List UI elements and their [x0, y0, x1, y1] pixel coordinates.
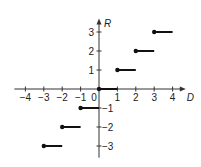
- y-tick-label: 3: [88, 27, 94, 38]
- x-axis-label: D: [187, 92, 194, 103]
- closed-endpoint-dot: [42, 144, 46, 148]
- closed-endpoint-dot: [134, 49, 138, 53]
- x-tick-label: −1: [75, 92, 87, 103]
- y-tick-label: −2: [102, 122, 114, 133]
- x-tick-label: −2: [56, 92, 68, 103]
- y-tick-label: 2: [88, 46, 94, 57]
- closed-endpoint-dot: [78, 106, 82, 110]
- x-tick-label: 4: [170, 92, 176, 103]
- step-function-chart: −4−3−2−101234−3−2−1123 D R: [0, 0, 201, 167]
- y-tick-label: −3: [102, 141, 114, 152]
- y-axis-arrow: [97, 19, 102, 25]
- y-axis-label: R: [104, 18, 111, 29]
- y-tick-label: −1: [102, 103, 114, 114]
- x-axis-arrow: [180, 87, 186, 92]
- closed-endpoint-dot: [60, 125, 64, 129]
- x-tick-label: 2: [133, 92, 139, 103]
- x-tick-label: 3: [151, 92, 157, 103]
- x-tick-label: −3: [38, 92, 50, 103]
- closed-endpoint-dot: [115, 68, 119, 72]
- x-tick-label: 0: [91, 92, 97, 103]
- y-tick-label: 1: [88, 65, 94, 76]
- x-tick-label: −4: [20, 92, 32, 103]
- closed-endpoint-dot: [97, 87, 101, 91]
- x-tick-label: 1: [115, 92, 121, 103]
- closed-endpoint-dot: [152, 30, 156, 34]
